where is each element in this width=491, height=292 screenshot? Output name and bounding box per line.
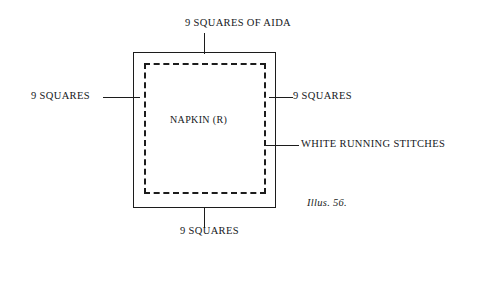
leader-line-top: [204, 33, 205, 54]
leader-line-stitches: [266, 145, 299, 146]
label-bottom-squares: 9 SQUARES: [180, 226, 239, 237]
label-napkin-center: NAPKIN (R): [170, 115, 227, 125]
leader-line-right: [269, 97, 293, 98]
label-top-aida: 9 SQUARES OF AIDA: [185, 18, 291, 29]
illustration-figure: 9 SQUARES OF AIDA 9 SQUARES 9 SQUARES 9 …: [0, 0, 491, 292]
label-white-running-stitches: WHITE RUNNING STITCHES: [301, 139, 445, 150]
leader-line-left: [103, 97, 140, 98]
figure-caption: Illus. 56.: [307, 198, 347, 209]
label-left-squares: 9 SQUARES: [31, 91, 90, 102]
running-stitch-outline: [144, 63, 266, 194]
label-right-squares: 9 SQUARES: [293, 91, 352, 102]
